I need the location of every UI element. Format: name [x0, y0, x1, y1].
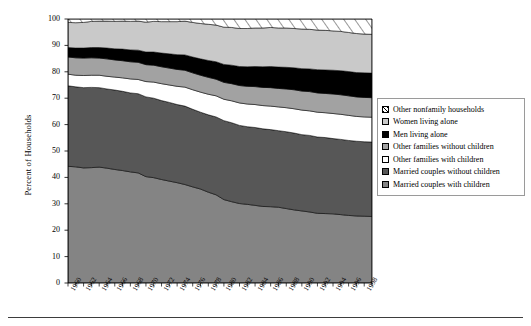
legend-swatch-icon	[382, 181, 389, 188]
y-tick-label: 60	[36, 121, 60, 129]
legend-item-label: Other nonfamily households	[393, 105, 484, 114]
legend-item[interactable]: Women living alone	[382, 116, 521, 128]
legend-swatch-icon	[382, 156, 389, 163]
legend-item[interactable]: Other nonfamily households	[382, 103, 521, 115]
legend-item[interactable]: Married couples without children	[382, 166, 521, 178]
legend-item[interactable]: Other families with children	[382, 153, 521, 165]
legend-swatch-icon	[382, 106, 389, 113]
legend-item-label: Married couples without children	[393, 167, 500, 176]
y-axis-ticks	[65, 19, 69, 283]
y-tick-label: 30	[36, 200, 60, 208]
y-axis-title: Percent of Households	[23, 75, 33, 235]
legend-item-label: Women living alone	[393, 117, 458, 126]
y-tick-label: 40	[36, 173, 60, 181]
y-tick-label: 10	[36, 253, 60, 261]
legend-swatch-icon	[382, 143, 389, 150]
legend-swatch-icon	[382, 131, 389, 138]
y-tick-label: 20	[36, 226, 60, 234]
legend-item-label: Men living alone	[393, 130, 448, 139]
y-tick-label: 50	[36, 147, 60, 155]
chart-figure: Percent of Households 010203040506070809…	[0, 0, 531, 326]
legend-item[interactable]: Other families without children	[382, 141, 521, 153]
legend-item-label: Other families without children	[393, 142, 494, 151]
chart-legend: Other nonfamily householdsWomen living a…	[377, 98, 525, 196]
legend-item[interactable]: Men living alone	[382, 128, 521, 140]
y-tick-label: 0	[36, 279, 60, 287]
y-tick-label: 80	[36, 68, 60, 76]
legend-swatch-icon	[382, 168, 389, 175]
y-tick-label: 90	[36, 41, 60, 49]
y-tick-label: 70	[36, 94, 60, 102]
legend-item[interactable]: Married couples with children	[382, 178, 521, 190]
legend-item-label: Other families with children	[393, 155, 483, 164]
series-group	[68, 19, 372, 283]
y-tick-label: 100	[36, 15, 60, 23]
legend-item-label: Married couples with children	[393, 180, 490, 189]
legend-swatch-icon	[382, 118, 389, 125]
footer-divider	[8, 317, 523, 318]
